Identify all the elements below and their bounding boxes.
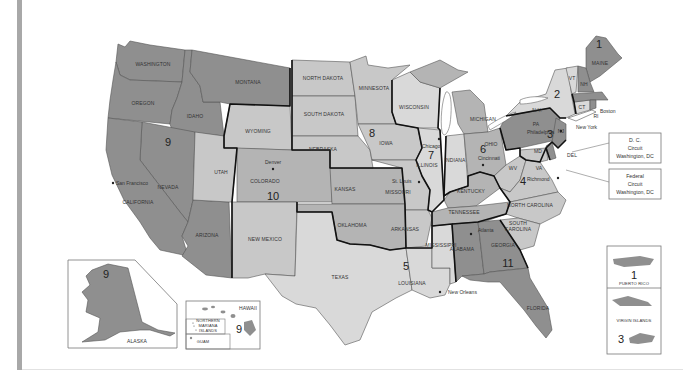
svg-text:D. C.: D. C. (629, 137, 641, 143)
label-washington: WASHINGTON (135, 61, 170, 67)
circuit-number-1: 1 (596, 38, 602, 50)
state-colorado[interactable] (237, 148, 332, 202)
city-dot-atlanta (470, 233, 472, 235)
label-idaho: IDAHO (187, 113, 203, 119)
circuit-number-8: 8 (369, 127, 375, 139)
label-ohio: OHIO (484, 141, 497, 147)
label-indiana: INDIANA (445, 157, 467, 163)
circuit-number-11: 11 (502, 257, 513, 269)
label-delaware: DEL (567, 152, 577, 158)
label-south-dakota: SOUTH DAKOTA (304, 111, 345, 117)
dc-circuit-callout: D. C. Circuit Washington, DC (572, 133, 661, 163)
label-wyoming: WYOMING (245, 128, 271, 134)
circuit-number-2: 2 (554, 88, 560, 100)
label-oregon: OREGON (132, 100, 155, 106)
state-wyoming[interactable] (224, 104, 292, 150)
city-dot-new-orleans (439, 291, 441, 293)
city-dot-st-louis (418, 181, 420, 183)
city-dot-denver (272, 168, 274, 170)
label-illinois: ILLINOIS (416, 162, 438, 168)
svg-text:Federal: Federal (626, 173, 644, 179)
state-michigan-lower[interactable] (452, 90, 488, 134)
label-vermont: VT (569, 75, 576, 81)
label-south-carolina-2: CAROLINA (505, 226, 532, 232)
svg-text:Washington, DC: Washington, DC (616, 153, 654, 159)
label-utah: UTAH (214, 169, 228, 175)
label-nebraska: NEBRASKA (309, 146, 338, 152)
label-texas: TEXAS (332, 274, 349, 280)
city-boston: Boston (600, 108, 616, 114)
label-north-carolina: NORTH CAROLINA (507, 202, 554, 208)
lake-michigan (441, 92, 451, 135)
federal-circuit-callout: Federal Circuit Washington, DC (566, 169, 661, 199)
city-atlanta: Atlanta (478, 227, 494, 233)
label-new-mexico: NEW MEXICO (248, 236, 282, 242)
circuit-number-3-vi: 3 (618, 333, 624, 345)
label-kentucky: KENTUCKY (457, 188, 486, 194)
city-st-louis: St. Louis (392, 178, 412, 184)
label-virgin-islands: VIRGIN ISLANDS (617, 318, 652, 323)
label-georgia: GEORGIA (491, 242, 516, 248)
city-dot-san-francisco (112, 182, 114, 184)
label-wisconsin: WISCONSIN (399, 104, 429, 110)
label-hawaii: HAWAII (239, 305, 257, 311)
label-new-hampshire: NH (580, 81, 588, 87)
svg-text:Washington, DC: Washington, DC (616, 189, 654, 195)
city-dot-cincinnati (482, 164, 484, 166)
label-nevada: NEVADA (158, 184, 179, 190)
svg-text:Circuit: Circuit (628, 145, 643, 151)
state-florida[interactable] (462, 268, 552, 338)
island-maui (231, 314, 236, 318)
label-tennessee: TENNESSEE (448, 209, 480, 215)
label-iowa: IOWA (379, 140, 393, 146)
label-montana: MONTANA (235, 79, 261, 85)
label-guam: GUAM (197, 339, 209, 344)
state-rhode-island[interactable] (590, 100, 596, 110)
label-louisiana: LOUISIANA (398, 280, 426, 286)
label-missouri: MISSOURI (385, 189, 411, 195)
circuit-map: WASHINGTON OREGON IDAHO MONTANA NEVADA C… (0, 0, 683, 376)
svg-text:Circuit: Circuit (628, 181, 643, 187)
label-north-dakota: NORTH DAKOTA (303, 75, 344, 81)
alaska-inset: 9 ALASKA (68, 260, 177, 348)
state-maine[interactable] (586, 36, 622, 82)
circuit-11 (452, 220, 552, 338)
label-colorado: COLORADO (250, 178, 279, 184)
label-connecticut: CT (579, 104, 586, 110)
label-alaska: ALASKA (127, 338, 148, 344)
city-dot-chicago (438, 138, 440, 140)
label-rhode-island: RI (593, 113, 598, 119)
island-molokai (221, 311, 226, 314)
label-arkansas: ARKANSAS (391, 226, 420, 232)
circuit-number-7: 7 (428, 149, 434, 161)
circuit-number-4: 4 (520, 175, 526, 187)
state-montana[interactable] (190, 50, 290, 106)
caribbean-inset: 1 PUERTO RICO VIRGIN ISLANDS 3 (607, 246, 661, 354)
circuit-number-9-alaska: 9 (103, 268, 109, 280)
circuit-number-3: 3 (547, 128, 553, 140)
label-west-virginia: WV (509, 165, 518, 171)
label-virginia: VA (536, 165, 543, 171)
label-maine: MAINE (592, 60, 609, 66)
circuit-number-1-pr: 1 (631, 269, 637, 281)
circuit-number-9-hawaii: 9 (236, 323, 242, 335)
island-kauai (202, 308, 208, 311)
circuit-number-5: 5 (403, 260, 409, 272)
city-new-orleans: New Orleans (448, 289, 477, 295)
island-oahu (211, 306, 215, 308)
label-arizona: ARIZONA (196, 232, 219, 238)
pacific-inset: HAWAII 9 NORTHERN MARIANA ISLANDS GUAM (186, 301, 260, 349)
city-cincinnati: Cincinnati (478, 155, 500, 161)
city-dot-richmond (557, 177, 559, 179)
city-dot-philadelphia (560, 130, 562, 132)
island-guam (190, 337, 192, 339)
label-michigan: MICHIGAN (470, 116, 496, 122)
label-oklahoma: OKLAHOMA (337, 222, 367, 228)
label-alabama: ALABAMA (450, 246, 475, 252)
city-denver: Denver (265, 159, 281, 165)
city-richmond: Richmond (527, 176, 550, 182)
circuit-number-9: 9 (165, 136, 171, 148)
city-san-francisco: San Francisco (116, 180, 148, 186)
label-maryland: MD (534, 148, 542, 154)
circuit-number-10: 10 (267, 190, 279, 202)
